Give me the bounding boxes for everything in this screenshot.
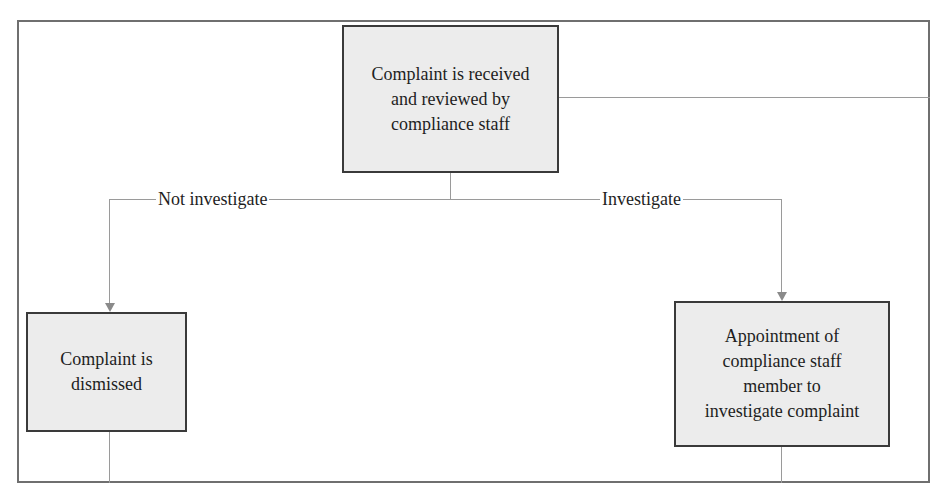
- arrow-down-icon: [105, 303, 115, 312]
- node-text-line: Appointment of: [705, 324, 859, 349]
- connector-appointment-down: [781, 447, 782, 483]
- node-text-line: and reviewed by: [372, 87, 530, 112]
- node-text-line: dismissed: [60, 372, 153, 397]
- edge-label-not-investigate: Not investigate: [156, 189, 269, 209]
- connector-top-down: [450, 173, 451, 199]
- node-complaint-received: Complaint is received and reviewed by co…: [342, 25, 559, 173]
- node-text-line: member to: [705, 374, 859, 399]
- arrow-down-icon: [777, 292, 787, 301]
- edge-label-investigate: Investigate: [600, 189, 683, 209]
- node-text-line: Complaint is: [60, 347, 153, 372]
- node-appointment: Appointment of compliance staff member t…: [674, 301, 890, 447]
- node-text-line: investigate complaint: [705, 399, 859, 424]
- node-text-line: Complaint is received: [372, 62, 530, 87]
- connector-left-down: [109, 199, 110, 303]
- connector-right-down: [781, 199, 782, 292]
- node-complaint-dismissed: Complaint is dismissed: [26, 312, 187, 432]
- connector-right-exit: [559, 97, 930, 98]
- node-text-line: compliance staff: [372, 112, 530, 137]
- node-text-line: compliance staff: [705, 349, 859, 374]
- connector-dismissed-down: [109, 432, 110, 483]
